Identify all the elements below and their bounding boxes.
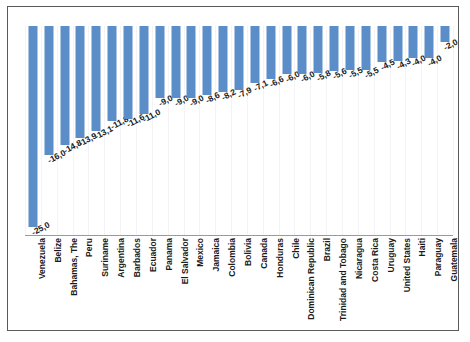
category-tick: Costa Rica (358, 236, 374, 328)
bar-slot[interactable]: -14,8 (57, 26, 73, 235)
bar[interactable] (298, 26, 307, 74)
bar-slot[interactable]: -11,0 (136, 26, 152, 235)
category-tick: Bolivia (231, 236, 247, 328)
category-tick: Belize (41, 236, 57, 328)
bar[interactable] (155, 26, 164, 98)
category-tick: Suriname (88, 236, 104, 328)
bars-layer: -25,0-16,0-14,8-13,9-13,1-11,8-11,6-11,0… (25, 26, 453, 235)
category-tick: Haiti (405, 236, 421, 328)
category-tick: Argentina (104, 236, 120, 328)
bar-slot[interactable]: -11,6 (120, 26, 136, 235)
bar-slot[interactable]: -6,6 (263, 26, 279, 235)
category-tick: Peru (73, 236, 89, 328)
bar-slot[interactable]: -9,0 (152, 26, 168, 235)
bar-slot[interactable]: -6,0 (294, 26, 310, 235)
category-tick: Ecuador (136, 236, 152, 328)
bar[interactable] (219, 26, 228, 92)
category-tick: Canada (247, 236, 263, 328)
bar[interactable] (314, 26, 323, 73)
bar-slot[interactable]: -2,0 (437, 26, 453, 235)
bar-slot[interactable]: -5,5 (358, 26, 374, 235)
bar-slot[interactable]: -5,8 (310, 26, 326, 235)
bar-slot[interactable]: -7,9 (231, 26, 247, 235)
bar-slot[interactable]: -11,8 (104, 26, 120, 235)
category-tick: Venezuela (25, 236, 41, 328)
bar-slot[interactable]: -4,0 (405, 26, 421, 235)
bar-slot[interactable]: -4,5 (374, 26, 390, 235)
category-tick: Nicaragua (342, 236, 358, 328)
bar-slot[interactable]: -16,0 (41, 26, 57, 235)
category-tick: El Salvador (168, 236, 184, 328)
category-tick: Uruguay (374, 236, 390, 328)
category-tick: Dominican Republic (294, 236, 310, 328)
category-tick: Jamaica (199, 236, 215, 328)
category-tick: Colombia (215, 236, 231, 328)
bar[interactable] (425, 26, 434, 58)
bar[interactable] (76, 26, 85, 138)
bar[interactable] (409, 26, 418, 58)
bar[interactable] (108, 26, 117, 121)
bar[interactable] (124, 26, 133, 119)
category-tick: Panama (152, 236, 168, 328)
bar-slot[interactable]: -25,0 (25, 26, 41, 235)
bar[interactable] (377, 26, 386, 62)
category-tick: Brazil (310, 236, 326, 328)
bar-slot[interactable]: -9,0 (168, 26, 184, 235)
bar-slot[interactable]: -5,5 (342, 26, 358, 235)
category-tick: Barbados (120, 236, 136, 328)
category-tick: Honduras (263, 236, 279, 328)
bar-slot[interactable]: -9,0 (184, 26, 200, 235)
bar[interactable] (282, 26, 291, 74)
bar[interactable] (92, 26, 101, 131)
bar-slot[interactable]: -8,2 (215, 26, 231, 235)
bar[interactable] (393, 26, 402, 61)
category-tick: United States (390, 236, 406, 328)
bar[interactable] (345, 26, 354, 70)
bar-slot[interactable]: -5,6 (326, 26, 342, 235)
category-tick: Mexico (184, 236, 200, 328)
bar[interactable] (330, 26, 339, 71)
bar-slot[interactable]: -4,3 (390, 26, 406, 235)
category-tick: Guatemala (437, 236, 453, 328)
bar[interactable] (203, 26, 212, 95)
bar-slot[interactable]: -8,6 (199, 26, 215, 235)
bar-slot[interactable]: -6,0 (279, 26, 295, 235)
bar-slot[interactable]: -4,0 (421, 26, 437, 235)
gridline (453, 26, 454, 235)
bar[interactable] (171, 26, 180, 98)
bar[interactable] (44, 26, 53, 155)
category-tick: Trinidad and Tobago (326, 236, 342, 328)
bar[interactable] (187, 26, 196, 98)
bar[interactable] (28, 26, 37, 227)
category-label: Guatemala (449, 238, 459, 281)
bar-slot[interactable]: -7,1 (247, 26, 263, 235)
bar[interactable] (139, 26, 148, 114)
bar[interactable] (250, 26, 259, 83)
bar[interactable] (60, 26, 69, 145)
bar[interactable] (234, 26, 243, 90)
bar-slot[interactable]: -13,1 (88, 26, 104, 235)
category-tick: Paraguay (421, 236, 437, 328)
chart-frame: -25,0-16,0-14,8-13,9-13,1-11,8-11,6-11,0… (7, 6, 459, 331)
category-tick: Chile (279, 236, 295, 328)
bar[interactable] (361, 26, 370, 70)
category-tick: Bahamas, The (57, 236, 73, 328)
bar-slot[interactable]: -13,9 (73, 26, 89, 235)
plot-area: -25,0-16,0-14,8-13,9-13,1-11,8-11,6-11,0… (25, 26, 453, 235)
category-axis-labels: VenezuelaBelizeBahamas, ThePeruSurinameA… (25, 236, 453, 328)
bar[interactable] (266, 26, 275, 79)
